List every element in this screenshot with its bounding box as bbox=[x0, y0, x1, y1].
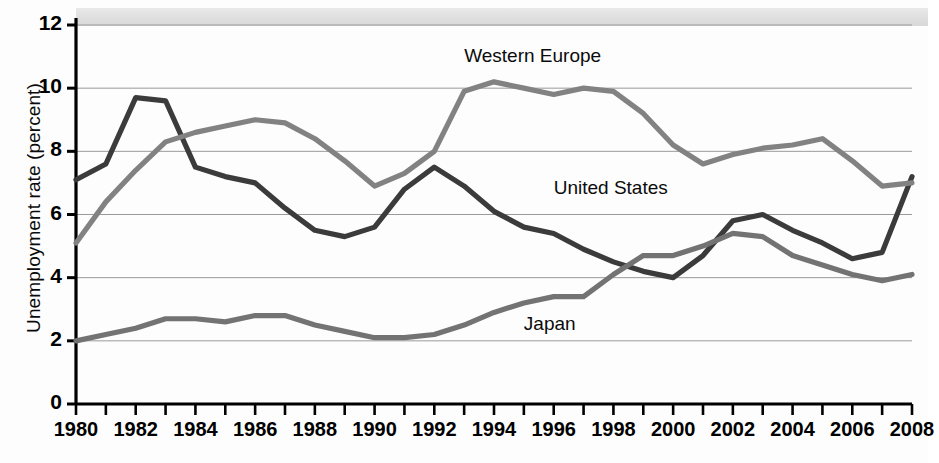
x-tick-label: 1994 bbox=[462, 418, 526, 441]
series-label-japan: Japan bbox=[524, 313, 576, 335]
x-tick-label: 1990 bbox=[343, 418, 407, 441]
x-tick-label: 2004 bbox=[761, 418, 825, 441]
x-tick-label: 1986 bbox=[223, 418, 287, 441]
x-tick-label: 1984 bbox=[163, 418, 227, 441]
x-tick-label: 2006 bbox=[820, 418, 884, 441]
x-tick-label: 1996 bbox=[522, 418, 586, 441]
x-tick-label: 2002 bbox=[701, 418, 765, 441]
series-line-japan bbox=[76, 233, 912, 340]
series-line-western-europe bbox=[76, 82, 912, 243]
x-tick-label: 2008 bbox=[880, 418, 939, 441]
x-tick-label: 1998 bbox=[581, 418, 645, 441]
series-label-western-europe: Western Europe bbox=[464, 45, 601, 67]
x-tick-label: 2000 bbox=[641, 418, 705, 441]
x-tick-label: 1982 bbox=[104, 418, 168, 441]
x-tick-label: 1980 bbox=[44, 418, 108, 441]
x-tick-label: 1992 bbox=[402, 418, 466, 441]
x-tick-label: 1988 bbox=[283, 418, 347, 441]
series-label-united-states: United States bbox=[554, 177, 668, 199]
